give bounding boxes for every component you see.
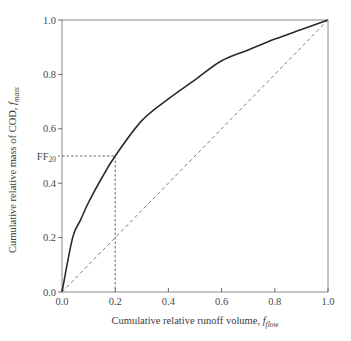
x-axis-label-text: Cumulative relative runoff volume, <box>112 315 263 326</box>
x-axis-ticks: 0.00.20.40.60.81.0 <box>55 288 334 307</box>
y-tick-label: 0.4 <box>43 178 57 189</box>
x-tick-label: 0.6 <box>215 296 228 307</box>
y-tick-label: 1.0 <box>43 15 56 26</box>
x-axis-label-sub: flow <box>266 320 279 329</box>
series-layer <box>62 20 328 292</box>
y-axis-label: Cumulative relative mass of COD, fmass <box>7 87 21 253</box>
y-tick-label: 0.2 <box>43 232 56 243</box>
bisector-line <box>62 20 328 292</box>
ff20-annotation: FF20 <box>37 151 115 293</box>
y-axis-label-sub: mass <box>12 87 21 102</box>
x-tick-label: 0.8 <box>268 296 281 307</box>
x-tick-label: 0.4 <box>162 296 176 307</box>
ff20-label: FF20 <box>37 151 56 165</box>
y-axis-label-text: Cumulative relative mass of COD, <box>7 105 18 253</box>
x-tick-label: 0.2 <box>109 296 122 307</box>
y-tick-label: 0.6 <box>43 123 56 134</box>
y-tick-label: 0.8 <box>43 69 56 80</box>
x-tick-label: 1.0 <box>321 296 334 307</box>
y-tick-label: 0.0 <box>43 287 56 298</box>
chart: 0.00.20.40.60.81.0 0.00.20.40.60.81.0 FF… <box>0 0 351 341</box>
x-axis-label: Cumulative relative runoff volume, fflow <box>112 315 279 329</box>
x-tick-label: 0.0 <box>55 296 68 307</box>
